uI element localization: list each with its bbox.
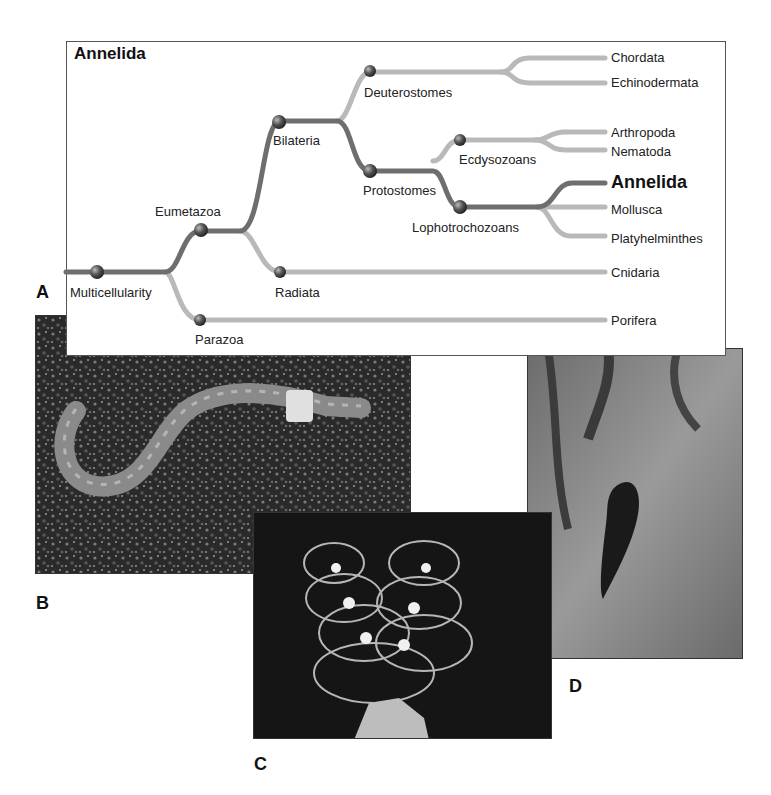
- label-protostomes: Protostomes: [363, 183, 436, 198]
- node-protostomes: [363, 164, 377, 178]
- panel-label-c: C: [254, 754, 267, 775]
- photo-leech: [527, 348, 743, 659]
- leaf-echinodermata: Echinodermata: [611, 75, 698, 90]
- photo-tube-worms: [253, 512, 552, 739]
- label-lophotrochozoans: Lophotrochozoans: [412, 220, 519, 235]
- node-lophotrochozoans: [453, 200, 467, 214]
- node-bilateria: [272, 115, 286, 129]
- node-ecdysozoans: [454, 134, 466, 146]
- leaf-mollusca: Mollusca: [611, 202, 662, 217]
- label-eumetazoa: Eumetazoa: [155, 204, 221, 219]
- label-deuterostomes: Deuterostomes: [364, 85, 452, 100]
- node-eumetazoa: [194, 223, 208, 237]
- tree-title: Annelida: [74, 44, 146, 64]
- leaf-chordata: Chordata: [611, 50, 664, 65]
- main-branch: [66, 121, 605, 272]
- node-radiata: [274, 266, 286, 278]
- leaf-platyhelminthes: Platyhelminthes: [611, 231, 703, 246]
- leaf-cnidaria: Cnidaria: [611, 265, 659, 280]
- label-radiata: Radiata: [275, 285, 320, 300]
- leaf-porifera: Porifera: [611, 313, 657, 328]
- leech-image: [528, 349, 743, 659]
- node-parazoa: [194, 314, 206, 326]
- panel-label-a: A: [36, 282, 49, 303]
- panel-label-b: B: [36, 593, 49, 614]
- tube-worms-image: [254, 513, 552, 739]
- panel-label-d: D: [569, 676, 582, 697]
- label-parazoa: Parazoa: [195, 332, 243, 347]
- leaf-annelida: Annelida: [611, 172, 687, 193]
- node-multicellularity: [90, 265, 104, 279]
- label-multicellularity: Multicellularity: [70, 285, 152, 300]
- leaf-arthropoda: Arthropoda: [611, 125, 675, 140]
- label-bilateria: Bilateria: [273, 133, 320, 148]
- node-deuterostomes: [364, 65, 376, 77]
- leaf-nematoda: Nematoda: [611, 144, 671, 159]
- label-ecdysozoans: Ecdysozoans: [459, 152, 536, 167]
